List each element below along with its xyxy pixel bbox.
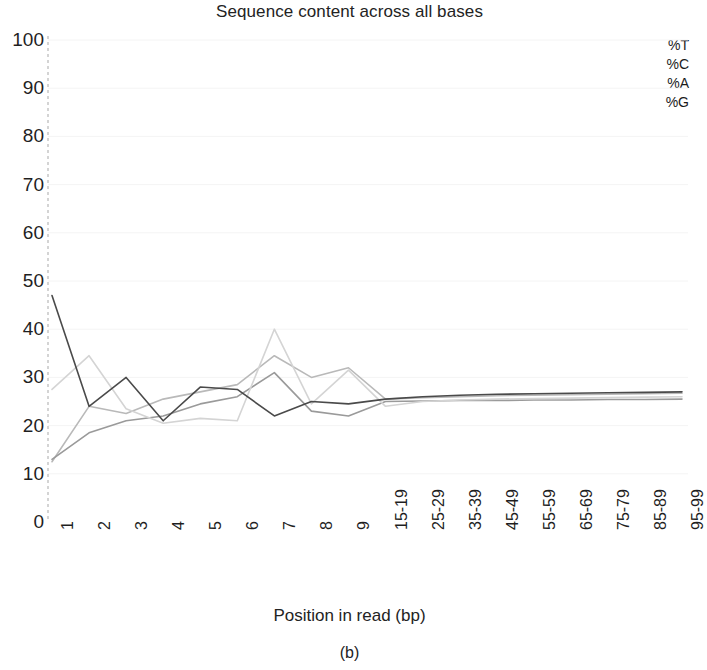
x-axis-tick-label: 5 [207,521,225,530]
x-axis-title: Position in read (bp) [0,606,699,626]
x-axis-tick-label: 25-29 [430,489,448,530]
x-axis-tick-label: 7 [281,521,299,530]
x-axis-tick-label: 1 [59,521,77,530]
x-axis-tick-label: 9 [355,521,373,530]
x-axis-tick-label: 55-59 [541,489,559,530]
x-axis-tick-label: 35-39 [467,489,485,530]
x-axis-tick-label: 3 [133,521,151,530]
x-axis-tick-label: 2 [96,521,114,530]
x-axis-tick-label: 95-99 [689,489,707,530]
x-axis-tick-label: 75-79 [615,489,633,530]
x-axis-tick-label: 6 [244,521,262,530]
x-axis-tick-label: 45-49 [504,489,522,530]
x-axis-tick-label: 65-69 [578,489,596,530]
x-axis-tick-label: 8 [318,521,336,530]
x-axis-tick-label: 4 [170,521,188,530]
x-axis-tick-label: 85-89 [652,489,670,530]
x-axis-tick-label: 15-19 [393,489,411,530]
figure-caption: (b) [0,644,699,662]
